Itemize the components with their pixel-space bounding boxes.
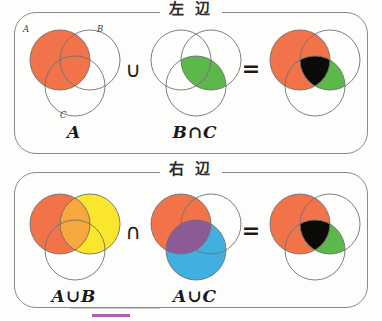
set-tag-b: B [97, 24, 103, 34]
venn-aub-label: A∪B [22, 286, 126, 306]
venn-result-left [262, 22, 366, 126]
venn-a-cup-c: A∪C [143, 186, 247, 290]
venn-a: A [22, 22, 126, 126]
panel-right-title: 右 辺 [160, 162, 222, 177]
venn-auc-label: A∪C [143, 286, 247, 306]
set-tag-c: C [60, 110, 67, 120]
bottom-accent-rule [92, 314, 130, 317]
panel-left-title: 左 辺 [160, 2, 222, 17]
venn-result-right [262, 186, 366, 290]
venn-b-cap-c: B∩C [143, 22, 247, 126]
venn-a-label: A [22, 122, 126, 142]
venn-a-cup-b: A∪B [22, 186, 126, 290]
venn-bc-label: B∩C [143, 122, 247, 142]
scan-line [70, 308, 160, 309]
venn-identity-figure: 左 辺 A A B C ∪ B∩C [0, 0, 382, 321]
set-tag-a: A [23, 24, 29, 34]
